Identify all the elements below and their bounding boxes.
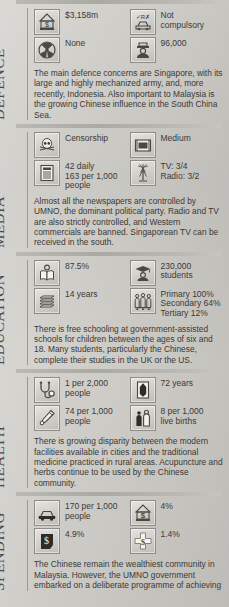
medicine-bottle-icon bbox=[34, 405, 60, 431]
svg-text:$: $ bbox=[140, 511, 145, 520]
stat-item: 96,000 bbox=[130, 37, 224, 63]
svg-text:✓R✗: ✓R✗ bbox=[135, 14, 149, 20]
section-spending: SPENDING 170 bbox=[0, 492, 229, 594]
stat-value: 230,000 students bbox=[161, 260, 193, 281]
stat-value: 14 years bbox=[65, 288, 98, 300]
graduate-icon bbox=[130, 260, 156, 286]
literacy-reader-icon bbox=[34, 260, 60, 286]
section-divider bbox=[16, 492, 221, 496]
stat-grid: 87.5% 230,000 students bbox=[34, 260, 223, 319]
section-paragraph: There is growing disparity between the m… bbox=[34, 436, 223, 488]
section-label: DEFENCE bbox=[0, 48, 8, 120]
education-spending-icon: $ bbox=[34, 528, 60, 554]
armed-forces-personnel-icon bbox=[130, 37, 156, 63]
stat-value: 8 per 1,000 live births bbox=[161, 405, 204, 426]
books-icon bbox=[34, 288, 60, 314]
stat-value: 1.4% bbox=[161, 528, 180, 540]
section-divider bbox=[16, 252, 221, 256]
section-paragraph: The Chinese remain the wealthiest commun… bbox=[34, 559, 223, 590]
section-defence: DEFENCE $ $3,158m bbox=[0, 0, 229, 124]
infant-mortality-icon bbox=[130, 405, 156, 431]
censorship-skull-icon bbox=[34, 132, 60, 158]
stat-grid: Censorship Medium bbox=[34, 132, 223, 191]
stat-value: 170 per 1,000 people bbox=[65, 500, 117, 521]
stat-value: Medium bbox=[161, 132, 191, 144]
stat-item: ✓R✗ Not compulsory bbox=[130, 9, 224, 35]
section-label: SPENDING bbox=[0, 512, 8, 591]
section-media: MEDIA Censorship bbox=[0, 124, 229, 252]
section-label-column: MEDIA bbox=[0, 128, 30, 252]
svg-text:▲: ▲ bbox=[146, 306, 150, 311]
stat-grid: 170 per 1,000 people $ 4% bbox=[34, 500, 223, 554]
stat-item: 1 per 2,000 people bbox=[34, 377, 128, 403]
stat-value: 87.5% bbox=[65, 260, 89, 272]
television-icon bbox=[130, 132, 156, 158]
section-label-hairline bbox=[27, 500, 28, 590]
svg-text:$: $ bbox=[140, 537, 145, 547]
section-label-column: EDUCATION bbox=[0, 256, 30, 369]
stat-item: 42 daily 163 per 1,000 people bbox=[34, 160, 128, 191]
svg-text:$: $ bbox=[44, 535, 49, 546]
stat-item: None bbox=[34, 37, 128, 63]
section-label: HEALTH bbox=[0, 426, 8, 488]
svg-text:▲: ▲ bbox=[141, 306, 145, 311]
section-paragraph: Almost all the newspapers are controlled… bbox=[34, 196, 223, 248]
stat-item: $ $3,158m bbox=[34, 9, 128, 35]
section-label: EDUCATION bbox=[0, 274, 8, 365]
pupils-group-icon: ▲ ▲ ▲ bbox=[130, 288, 156, 314]
stethoscope-icon bbox=[34, 377, 60, 403]
section-label-column: SPENDING bbox=[0, 496, 30, 594]
svg-text:▲: ▲ bbox=[135, 306, 139, 311]
stat-item: Medium bbox=[130, 132, 224, 158]
stat-item: 87.5% bbox=[34, 260, 128, 286]
stat-item: 230,000 students bbox=[130, 260, 224, 286]
section-education: EDUCATION 87.5% bbox=[0, 252, 229, 369]
stat-item: $ 4% bbox=[130, 500, 224, 526]
section-label-hairline bbox=[27, 132, 28, 248]
stat-value: 96,000 bbox=[161, 37, 187, 49]
section-health: HEALTH 1 per bbox=[0, 369, 229, 492]
stat-item: ▲ ▲ ▲ Primary 100% Secondary 64% Tertiar… bbox=[130, 288, 224, 319]
stat-value: Primary 100% Secondary 64% Tertiary 12% bbox=[161, 288, 221, 319]
stat-item: 14 years bbox=[34, 288, 128, 319]
stat-item: 74 per 1,000 people bbox=[34, 405, 128, 431]
car-ownership-icon bbox=[34, 500, 60, 526]
nuclear-weapons-icon bbox=[34, 37, 60, 63]
section-label-hairline bbox=[27, 8, 28, 120]
stat-value: 1 per 2,000 people bbox=[65, 377, 108, 398]
svg-text:$: $ bbox=[45, 21, 49, 28]
military-budget-icon: $ bbox=[34, 9, 60, 35]
section-paragraph: The main defence concerns are Singapore,… bbox=[34, 68, 223, 120]
stat-item: 72 years bbox=[130, 377, 224, 403]
defence-spending-icon: $ bbox=[130, 500, 156, 526]
stat-item: $ 4.9% bbox=[34, 528, 128, 554]
stat-grid: 1 per 2,000 people 72 years bbox=[34, 377, 223, 431]
section-label-column: HEALTH bbox=[0, 373, 30, 492]
stat-value: 4% bbox=[161, 500, 173, 512]
stat-value: 42 daily 163 per 1,000 people bbox=[65, 160, 117, 191]
newspaper-icon bbox=[34, 160, 60, 186]
stat-value: 74 per 1,000 people bbox=[65, 405, 113, 426]
stat-item: Censorship bbox=[34, 132, 128, 158]
stat-item: TV: 3/4 Radio: 3/2 bbox=[130, 160, 224, 191]
stat-item: $ 1.4% bbox=[130, 528, 224, 554]
broadcast-tower-icon bbox=[130, 160, 156, 186]
stat-value: 4.9% bbox=[65, 528, 84, 540]
section-divider bbox=[16, 0, 221, 4]
section-divider bbox=[16, 124, 221, 128]
section-label-column: DEFENCE bbox=[0, 4, 30, 124]
health-spending-icon: $ bbox=[130, 528, 156, 554]
stat-value: $3,158m bbox=[65, 9, 98, 21]
section-label: MEDIA bbox=[0, 196, 8, 248]
stat-value: TV: 3/4 Radio: 3/2 bbox=[161, 160, 200, 181]
stat-item: 170 per 1,000 people bbox=[34, 500, 128, 526]
stat-value: Not compulsory bbox=[161, 9, 204, 30]
section-paragraph: There is free schooling at government-as… bbox=[34, 324, 223, 366]
life-expectancy-coffin-icon bbox=[130, 377, 156, 403]
section-label-hairline bbox=[27, 377, 28, 488]
stat-value: Censorship bbox=[65, 132, 108, 144]
stat-value: 72 years bbox=[161, 377, 194, 389]
almanac-page: DEFENCE $ $3,158m bbox=[0, 0, 229, 607]
stat-value: None bbox=[65, 37, 85, 49]
stat-grid: $ $3,158m ✓R✗ bbox=[34, 9, 223, 63]
